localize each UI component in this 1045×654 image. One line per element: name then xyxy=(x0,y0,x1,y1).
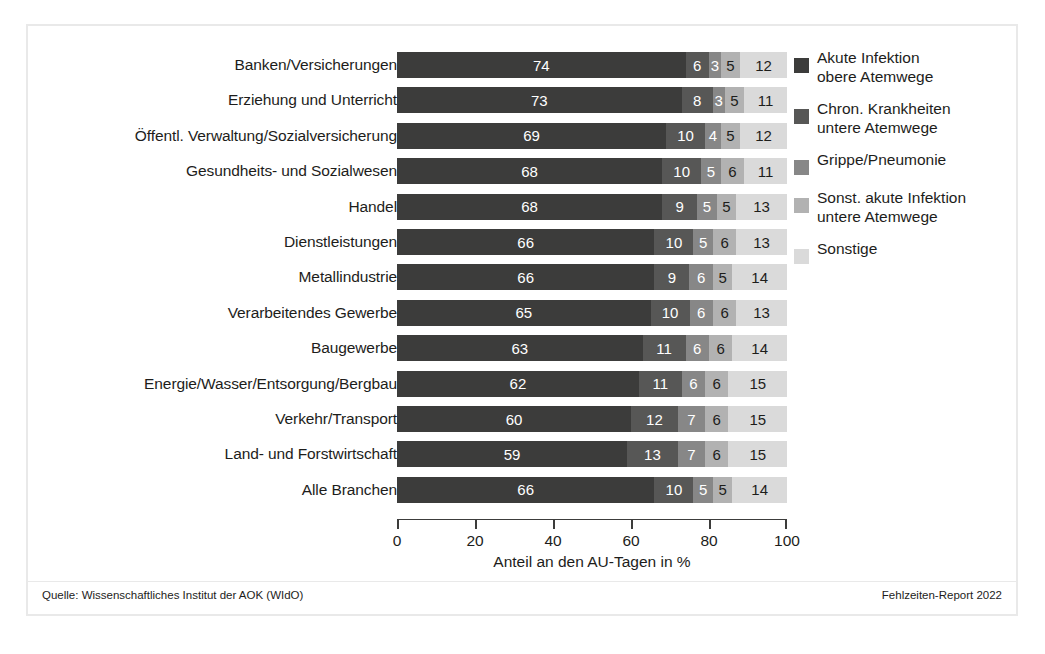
bar-segment: 13 xyxy=(736,229,787,255)
segment-value: 13 xyxy=(753,235,770,250)
legend-swatch xyxy=(794,249,809,264)
bar-segment: 10 xyxy=(654,229,693,255)
segment-value: 74 xyxy=(533,58,550,73)
bar-segment: 74 xyxy=(397,52,686,78)
bar-segment: 59 xyxy=(397,441,627,467)
bar-segment: 5 xyxy=(721,123,741,149)
bar-segment: 5 xyxy=(693,477,713,503)
bar-segment: 5 xyxy=(725,87,745,113)
bar-segment: 10 xyxy=(651,300,690,326)
chart-row: Land- und Forstwirtschaft59137615 xyxy=(28,441,1020,467)
axis-tick xyxy=(631,520,633,529)
segment-value: 15 xyxy=(749,412,766,427)
chart-row: Verarbeitendes Gewerbe65106613 xyxy=(28,300,1020,326)
bar-segment: 66 xyxy=(397,229,654,255)
legend-swatch xyxy=(794,109,809,124)
segment-value: 13 xyxy=(753,199,770,214)
segment-value: 13 xyxy=(753,305,770,320)
segment-value: 15 xyxy=(749,447,766,462)
stacked-bar: 7383511 xyxy=(397,87,787,113)
stacked-bar: 62116615 xyxy=(397,371,787,397)
bar-segment: 6 xyxy=(705,371,728,397)
legend-swatch xyxy=(794,58,809,73)
segment-value: 66 xyxy=(517,482,534,497)
stacked-bar: 6696514 xyxy=(397,264,787,290)
bar-segment: 13 xyxy=(736,300,787,326)
bar-segment: 11 xyxy=(643,335,686,361)
bar-segment: 5 xyxy=(693,229,713,255)
bar-segment: 10 xyxy=(666,123,705,149)
legend-item[interactable]: Akute Infektion obere Atemwege xyxy=(794,48,1009,86)
segment-value: 6 xyxy=(728,164,736,179)
segment-value: 3 xyxy=(711,58,719,73)
bar-segment: 5 xyxy=(717,194,737,220)
x-axis: 020406080100 xyxy=(397,519,787,529)
segment-value: 7 xyxy=(687,412,695,427)
legend-label: Chron. Krankheiten untere Atemwege xyxy=(817,99,951,137)
segment-value: 5 xyxy=(726,128,734,143)
bar-segment: 11 xyxy=(639,371,682,397)
stacked-bar: 65106613 xyxy=(397,300,787,326)
bar-segment: 5 xyxy=(721,52,741,78)
bar-segment: 15 xyxy=(728,441,787,467)
bar-segment: 66 xyxy=(397,264,654,290)
bar-segment: 60 xyxy=(397,406,631,432)
bar-segment: 7 xyxy=(678,441,705,467)
segment-value: 66 xyxy=(517,270,534,285)
category-label: Gesundheits- und Sozialwesen xyxy=(57,158,397,184)
legend-item[interactable]: Grippe/Pneumonie xyxy=(794,150,1009,175)
chart-row: Alle Branchen66105514 xyxy=(28,477,1020,503)
bar-segment: 12 xyxy=(631,406,678,432)
category-label: Baugewerbe xyxy=(57,335,397,361)
segment-value: 66 xyxy=(517,235,534,250)
segment-value: 11 xyxy=(758,93,774,108)
bar-segment: 9 xyxy=(654,264,689,290)
segment-value: 11 xyxy=(758,164,774,179)
bar-segment: 6 xyxy=(713,300,736,326)
bar-segment: 65 xyxy=(397,300,651,326)
axis-tick xyxy=(397,520,399,529)
legend-item[interactable]: Chron. Krankheiten untere Atemwege xyxy=(794,99,1009,137)
source-note: Quelle: Wissenschaftliches Institut der … xyxy=(42,589,303,601)
bar-segment: 11 xyxy=(744,158,787,184)
segment-value: 6 xyxy=(693,58,701,73)
bar-segment: 12 xyxy=(740,123,787,149)
axis-tick-label: 80 xyxy=(700,532,717,550)
bar-segment: 14 xyxy=(732,477,787,503)
bar-segment: 6 xyxy=(689,264,712,290)
bar-segment: 69 xyxy=(397,123,666,149)
segment-value: 14 xyxy=(751,482,768,497)
chart-legend: Akute Infektion obere AtemwegeChron. Kra… xyxy=(794,48,1009,277)
segment-value: 5 xyxy=(730,93,738,108)
segment-value: 5 xyxy=(726,58,734,73)
segment-value: 11 xyxy=(656,341,672,356)
bar-segment: 63 xyxy=(397,335,643,361)
bar-segment: 13 xyxy=(627,441,678,467)
segment-value: 10 xyxy=(662,305,679,320)
legend-item[interactable]: Sonst. akute Infektion untere Atemwege xyxy=(794,188,1009,226)
segment-value: 5 xyxy=(703,199,711,214)
segment-value: 10 xyxy=(666,235,683,250)
legend-label: Sonst. akute Infektion untere Atemwege xyxy=(817,188,966,226)
segment-value: 5 xyxy=(699,235,707,250)
bar-segment: 7 xyxy=(678,406,705,432)
bar-segment: 68 xyxy=(397,194,662,220)
axis-tick-label: 40 xyxy=(544,532,561,550)
segment-value: 5 xyxy=(718,270,726,285)
segment-value: 6 xyxy=(713,412,721,427)
segment-value: 68 xyxy=(521,164,538,179)
bar-segment: 5 xyxy=(713,264,733,290)
report-note: Fehlzeiten-Report 2022 xyxy=(882,589,1002,601)
segment-value: 6 xyxy=(713,376,721,391)
segment-value: 6 xyxy=(697,305,705,320)
segment-value: 10 xyxy=(666,482,683,497)
stacked-bar: 6895513 xyxy=(397,194,787,220)
segment-value: 73 xyxy=(531,93,548,108)
bar-segment: 5 xyxy=(697,194,717,220)
stacked-bar: 66105514 xyxy=(397,477,787,503)
segment-value: 11 xyxy=(652,376,668,391)
bar-segment: 14 xyxy=(732,335,787,361)
stacked-bar: 7463512 xyxy=(397,52,787,78)
legend-item[interactable]: Sonstige xyxy=(794,239,1009,264)
segment-value: 13 xyxy=(644,447,661,462)
